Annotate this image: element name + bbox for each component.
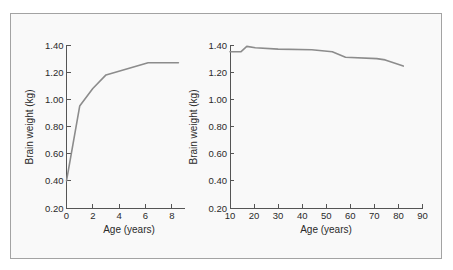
x-tick-label: 50: [321, 210, 332, 221]
x-tick-label: 60: [345, 210, 356, 221]
y-tick-label: 0.60: [209, 148, 228, 159]
x-axis-label: Age (years): [300, 224, 352, 235]
axes: [230, 45, 423, 208]
y-tick-label: 1.00: [209, 94, 228, 105]
figure-canvas: 0.200.400.600.801.001.201.4002468Age (ye…: [0, 0, 453, 270]
x-tick-label: 10: [225, 210, 236, 221]
x-tick-label: 70: [369, 210, 380, 221]
y-axis-label: Brain weight (kg): [24, 89, 35, 164]
y-tick-label: 0.40: [209, 175, 228, 186]
x-tick-label: 30: [273, 210, 284, 221]
y-axis-label: Brain weight (kg): [188, 89, 199, 164]
x-tick-label: 4: [117, 210, 122, 221]
chart-panel-left: 0.200.400.600.801.001.201.4002468Age (ye…: [24, 40, 185, 236]
x-tick-label: 6: [143, 210, 148, 221]
y-tick-label: 0.40: [45, 175, 64, 186]
x-tick-label: 40: [297, 210, 308, 221]
x-tick-label: 8: [169, 210, 174, 221]
data-line: [67, 63, 179, 181]
x-tick-label: 20: [249, 210, 260, 221]
y-tick-label: 0.80: [209, 121, 228, 132]
y-tick-label: 1.20: [209, 67, 228, 78]
y-tick-label: 1.00: [45, 94, 64, 105]
x-tick-label: 2: [90, 210, 95, 221]
y-tick-label: 0.20: [45, 203, 64, 214]
x-axis-label: Age (years): [103, 224, 155, 235]
y-tick-label: 1.40: [45, 40, 64, 51]
x-tick-label: 90: [417, 210, 428, 221]
y-tick-label: 0.80: [45, 121, 64, 132]
x-tick-label: 80: [393, 210, 404, 221]
x-tick-label: 0: [64, 210, 69, 221]
y-tick-label: 1.40: [209, 40, 228, 51]
data-line: [230, 46, 403, 66]
y-tick-label: 0.60: [45, 148, 64, 159]
chart-panel-right: 0.200.400.600.801.001.201.40102030405060…: [188, 40, 428, 236]
y-tick-label: 1.20: [45, 67, 64, 78]
